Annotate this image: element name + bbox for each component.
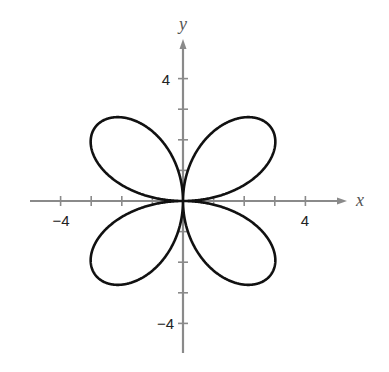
x-axis-arrow-icon — [337, 198, 347, 205]
axes — [30, 39, 347, 353]
y-tick-label-4: 4 — [162, 71, 170, 88]
y-axis-label: y — [177, 14, 187, 34]
y-axis-arrow-icon — [180, 39, 187, 49]
x-tick-label-neg4: −4 — [52, 212, 69, 229]
rose-curve-plot: −4 4 4 −4 x y — [0, 0, 389, 372]
x-tick-label-4: 4 — [301, 212, 309, 229]
y-tick-label-neg4: −4 — [157, 315, 174, 332]
x-axis-label: x — [355, 190, 364, 210]
